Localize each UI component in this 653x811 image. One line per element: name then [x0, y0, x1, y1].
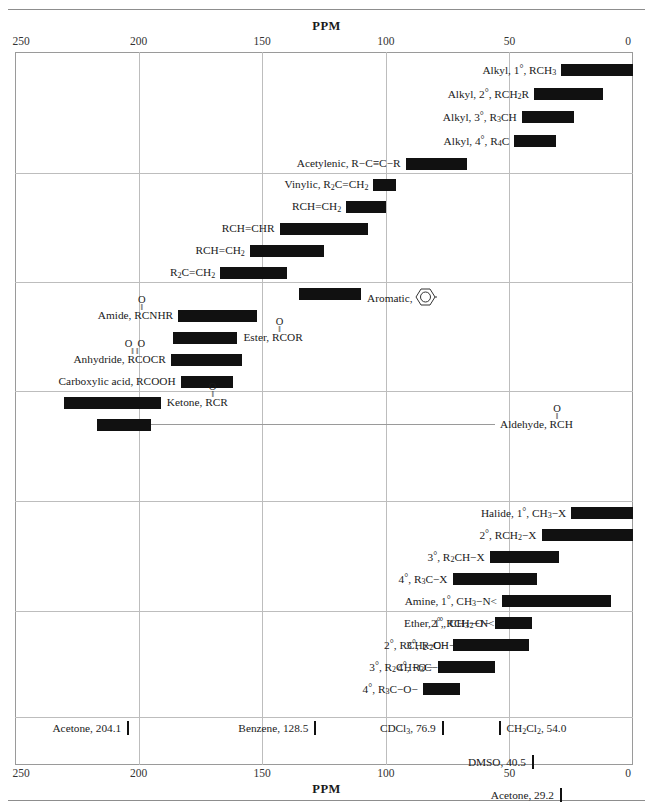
shift-row: Carboxylic acid, RCOOH: [15, 371, 633, 393]
shift-row: Acetylenic, R−C≡C−R: [15, 153, 633, 175]
range-bar: [490, 551, 559, 563]
shift-row: Amide, RCO‖NHR: [15, 305, 633, 327]
row-label: RCH=CH2: [292, 200, 341, 216]
shift-row: Aldehyde, RCO‖H: [15, 414, 633, 436]
range-bar: [178, 310, 257, 322]
shift-row: Ether, 1°, CH3−O−: [15, 612, 633, 634]
ppm-title-bottom: PPM: [0, 782, 653, 797]
range-bar: [97, 419, 151, 431]
range-bar: [250, 245, 324, 257]
row-label: Alkyl, 2°, RCH2R: [448, 87, 529, 103]
row-label: Alkyl, 3°, R3CH: [443, 110, 517, 126]
shift-row: Aromatic,: [15, 283, 633, 305]
range-bar: [502, 595, 611, 607]
row-label: Amine, 1°, CH3−N<: [405, 594, 497, 610]
range-bar: [423, 683, 460, 695]
row-label: Alkyl, 4°, R4C: [444, 134, 510, 150]
solvent-label: CDCl3, 76.9: [380, 722, 436, 736]
range-bar: [542, 529, 633, 541]
nmr-shift-chart: 250200150100500 250200150100500 Alkyl, 1…: [15, 52, 633, 765]
ppm-title-top: PPM: [0, 19, 653, 34]
shift-row: Vinylic, R2C=CH2: [15, 174, 633, 196]
row-label: RCH=CH2: [196, 244, 245, 260]
top-divider-rule: [8, 9, 645, 10]
row-label: Ester, RCO‖OR: [243, 331, 302, 343]
row-label: Anhydride, RCO O‖ ‖OCR: [73, 353, 165, 365]
axis-tick-150: 150: [254, 35, 271, 47]
axis-tick-250: 250: [12, 767, 29, 779]
range-bar: [171, 354, 243, 366]
row-label: Amide, RCO‖NHR: [98, 309, 173, 321]
axis-tick-100: 100: [377, 767, 394, 779]
shift-row: Ketone, RCO‖R: [15, 392, 633, 414]
shift-row: RCH=CH2: [15, 240, 633, 262]
range-bar: [280, 223, 369, 235]
range-bar: [220, 267, 287, 279]
range-bar: [561, 64, 633, 76]
row-label: 3°, R2CH−X: [428, 550, 485, 566]
row-label: 2°, RCH2−X: [479, 528, 536, 544]
shift-row: RCH=CH2: [15, 196, 633, 218]
row-label: Ether, 1°, CH3−O−: [404, 616, 490, 632]
shift-row: 3°, R2CH−O−: [15, 656, 633, 678]
solvent-label: DMSO, 40.5: [468, 756, 526, 768]
row-label: Ketone, RCO‖R: [167, 396, 228, 408]
solvent-tick: [442, 721, 444, 735]
row-label: 4°, R3C−O−: [363, 682, 418, 698]
range-bar: [453, 573, 537, 585]
row-label: Acetylenic, R−C≡C−R: [297, 157, 401, 169]
row-label: R2C=CH2: [170, 266, 215, 282]
range-bar: [299, 288, 361, 300]
solvent-label: CH2Cl2, 54.0: [507, 722, 567, 736]
row-label: Carboxylic acid, RCOOH: [59, 375, 176, 387]
shift-row: Anhydride, RCO O‖ ‖OCR: [15, 349, 633, 371]
range-bar: [522, 111, 574, 123]
axis-tick-0: 0: [625, 35, 631, 47]
shift-row: 2°, RCH2−X: [15, 524, 633, 546]
axis-tick-50: 50: [504, 35, 516, 47]
axis-tick-0: 0: [625, 767, 631, 779]
axis-tick-150: 150: [254, 767, 271, 779]
axis-ticks-top: 250200150100500: [15, 35, 633, 49]
solvent-label: Benzene, 128.5: [238, 722, 308, 734]
solvent-tick: [314, 721, 316, 735]
shift-row: Alkyl, 4°, R4C: [15, 130, 633, 152]
range-bar: [438, 661, 480, 673]
leader-line: [151, 424, 495, 425]
range-bar: [453, 639, 530, 651]
range-bar: [64, 397, 160, 409]
shift-row: RCH=CHR: [15, 218, 633, 240]
row-label: Vinylic, R2C=CH2: [284, 178, 368, 194]
row-label: Aldehyde, RCO‖H: [500, 418, 573, 430]
axis-tick-100: 100: [377, 35, 394, 47]
row-label: 2°, RCH2−O−: [384, 638, 447, 654]
shift-row: Halide, 1°, CH3−X: [15, 502, 633, 524]
range-bar: [534, 88, 603, 100]
row-label: 4°, R3C−X: [399, 572, 448, 588]
axis-tick-200: 200: [130, 35, 147, 47]
shift-row: 4°, R3C−O−: [15, 678, 633, 700]
shift-row: R2C=CH2: [15, 262, 633, 284]
axis-tick-200: 200: [130, 767, 147, 779]
range-bar: [181, 376, 233, 388]
range-bar: [373, 179, 395, 191]
shift-row: 3°, R2CH−X: [15, 546, 633, 568]
range-bar: [173, 332, 237, 344]
shift-row: Amine, 1°, CH3−N<: [15, 590, 633, 612]
solvent-label: Acetone, 29.2: [491, 789, 554, 801]
shift-row: Alkyl, 3°, R3CH: [15, 106, 633, 128]
axis-ticks-bottom: 250200150100500: [15, 767, 633, 781]
section-divider-6: [15, 717, 633, 718]
range-bar: [495, 617, 532, 629]
solvent-tick: [560, 788, 562, 802]
row-label: RCH=CHR: [222, 222, 275, 234]
solvent-tick: [127, 721, 129, 735]
axis-tick-50: 50: [504, 767, 516, 779]
shift-row: Alkyl, 1°, RCH3: [15, 59, 633, 81]
solvent-tick: [532, 755, 534, 769]
range-bar: [514, 135, 556, 147]
shift-row: 4°, R3C−X: [15, 568, 633, 590]
shift-row: 2°, RCH2−O−: [15, 634, 633, 656]
range-bar: [571, 507, 633, 519]
axis-tick-250: 250: [12, 35, 29, 47]
